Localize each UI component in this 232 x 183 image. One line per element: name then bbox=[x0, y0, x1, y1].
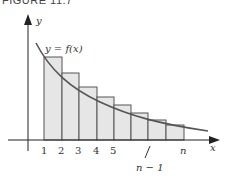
tick-n: n bbox=[180, 145, 186, 156]
rectangle-3 bbox=[79, 87, 97, 140]
y-axis-label: y bbox=[35, 15, 42, 26]
tick-n-minus-1: n − 1 bbox=[136, 162, 164, 173]
figure-diagram: y x y = f(x) 1 2 3 4 5 n n − 1 bbox=[0, 0, 232, 183]
rectangle-1 bbox=[44, 57, 62, 140]
tick-4: 4 bbox=[93, 145, 99, 156]
n-minus-1-pointer bbox=[145, 146, 150, 158]
tick-5: 5 bbox=[110, 145, 116, 156]
y-axis-arrow-icon bbox=[24, 14, 32, 25]
rectangle-5 bbox=[114, 105, 131, 140]
x-axis-label: x bbox=[210, 142, 216, 153]
tick-1: 1 bbox=[41, 145, 47, 156]
rectangle-2 bbox=[62, 73, 79, 140]
rectangle-4 bbox=[97, 97, 114, 140]
rectangles bbox=[44, 57, 184, 140]
tick-3: 3 bbox=[75, 145, 81, 156]
tick-2: 2 bbox=[58, 145, 64, 156]
curve-label: y = f(x) bbox=[44, 43, 83, 54]
